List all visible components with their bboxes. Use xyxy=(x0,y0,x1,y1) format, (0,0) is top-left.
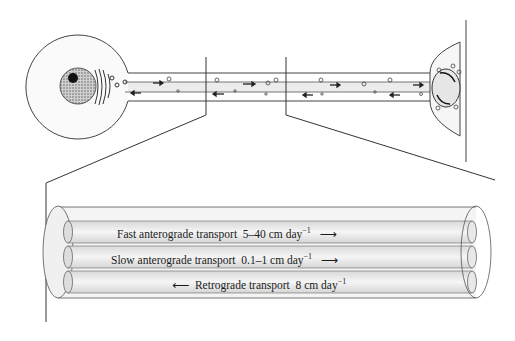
rate-text: 8 cm day xyxy=(296,279,338,291)
rate-exponent: −1 xyxy=(304,252,313,261)
arrow-right-icon: ⟶ xyxy=(319,227,336,241)
tube-label-retrograde: ⟵ Retrograde transport 8 cm day−1 xyxy=(172,275,346,292)
nucleus xyxy=(60,68,96,104)
tube-label-fast: Fast anterograde transport 5–40 cm day−1… xyxy=(117,224,337,241)
arrow-left-icon: ⟵ xyxy=(172,278,189,292)
rate-text: 5–40 cm day xyxy=(243,228,302,240)
rate-exponent: −1 xyxy=(302,226,311,235)
tube-label-slow: Slow anterograde transport 0.1–1 cm day−… xyxy=(111,250,338,267)
axon-terminal xyxy=(430,42,461,136)
arrow-right-icon: ⟶ xyxy=(321,253,338,267)
label-text: Fast anterograde transport xyxy=(117,228,237,240)
rate-exponent: −1 xyxy=(338,277,347,286)
label-text: Slow anterograde transport xyxy=(111,254,236,266)
rate-text: 0.1–1 cm day xyxy=(241,254,303,266)
label-text: Retrograde transport xyxy=(195,279,290,291)
